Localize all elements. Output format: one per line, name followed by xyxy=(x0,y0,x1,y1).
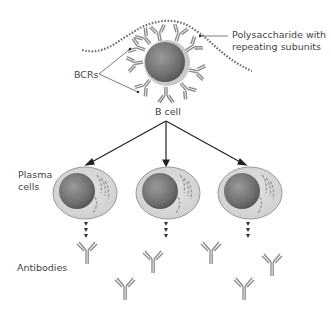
plasma-cells-label: Plasma cells xyxy=(18,169,52,193)
polysaccharide-label-line1: Polysaccharide with xyxy=(232,29,326,41)
b-cell-label: B cell xyxy=(155,106,181,118)
b-cell-activation-diagram: Polysaccharide with repeating subunits B… xyxy=(0,0,331,322)
plasma-cells xyxy=(53,167,282,219)
antibodies xyxy=(77,242,282,300)
polysaccharide-label-line2: repeating subunits xyxy=(232,41,326,53)
polysaccharide-label: Polysaccharide with repeating subunits xyxy=(232,29,326,53)
plasma-label-line1: Plasma xyxy=(18,169,52,181)
differentiation-arrows xyxy=(86,121,246,166)
antibodies-label: Antibodies xyxy=(17,262,67,274)
plasma-label-line2: cells xyxy=(18,181,52,193)
bcrs-label: BCRs xyxy=(74,69,99,81)
secretion-arrows xyxy=(84,222,250,238)
